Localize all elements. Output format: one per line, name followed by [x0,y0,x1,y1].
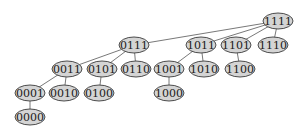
node-0101: 0101 [87,61,117,77]
node-label: 1101 [222,39,250,52]
node-label: 0011 [53,63,81,76]
nodes-layer: 1111011110111101111000110101011010011010… [15,13,293,125]
node-0000: 0000 [15,109,45,125]
node-label: 0010 [50,87,78,100]
node-0110: 0110 [121,61,151,77]
node-1110: 1110 [258,37,288,53]
node-label: 0000 [16,111,44,124]
node-1001: 1001 [154,61,184,77]
node-label: 0100 [85,87,113,100]
node-label: 1111 [264,15,292,28]
node-label: 0001 [16,87,44,100]
node-label: 1100 [226,63,254,76]
node-label: 0101 [88,63,116,76]
node-label: 1110 [259,39,287,52]
node-label: 0110 [122,63,150,76]
node-0100: 0100 [84,85,114,101]
node-label: 1011 [187,39,215,52]
node-1101: 1101 [221,37,251,53]
node-0010: 0010 [49,85,79,101]
node-1000: 1000 [154,85,184,101]
node-1011: 1011 [186,37,216,53]
node-label: 1010 [190,63,218,76]
node-0001: 0001 [15,85,45,101]
node-1100: 1100 [225,61,255,77]
node-0011: 0011 [52,61,82,77]
node-1111: 1111 [263,13,293,29]
node-label: 0111 [120,39,148,52]
node-0111: 0111 [119,37,149,53]
binary-tree-diagram: 1111011110111101111000110101011010011010… [0,0,304,134]
node-label: 1001 [155,63,183,76]
node-1010: 1010 [189,61,219,77]
node-label: 1000 [155,87,183,100]
